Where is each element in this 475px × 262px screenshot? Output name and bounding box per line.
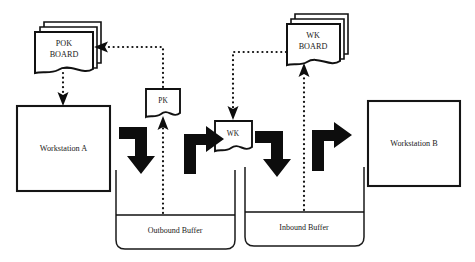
pk-card-node: PK — [146, 89, 180, 117]
wk-board-label-line1: WK — [306, 31, 320, 40]
wk-board-node: WK BOARD — [287, 14, 348, 65]
pok-board-label-line2: BOARD — [50, 50, 79, 59]
inbound-buffer-label: Inbound Buffer — [279, 223, 329, 232]
pok-board-node: POK BOARD — [35, 22, 101, 73]
outbound-buffer-node: Outbound Buffer — [116, 170, 235, 249]
outbound-buffer-label: Outbound Buffer — [148, 226, 203, 235]
workstation-a-node: Workstation A — [17, 106, 110, 191]
pok-board-label-line1: POK — [56, 39, 72, 48]
wk-card-label: WK — [227, 129, 240, 138]
wk-card-node: WK — [215, 121, 252, 151]
workstation-a-label: Workstation A — [40, 144, 87, 153]
wk-board-label-line2: BOARD — [299, 42, 328, 51]
kanban-flow-diagram: POK BOARD WK BOARD PK WK Workstation A — [0, 0, 475, 262]
workstation-b-node: Workstation B — [368, 101, 460, 186]
inbound-buffer-node: Inbound Buffer — [245, 167, 364, 246]
workstation-b-label: Workstation B — [390, 139, 438, 148]
pk-card-label: PK — [158, 96, 168, 105]
inbound-buffer-shape — [245, 167, 364, 246]
outbound-buffer-shape — [116, 170, 235, 249]
